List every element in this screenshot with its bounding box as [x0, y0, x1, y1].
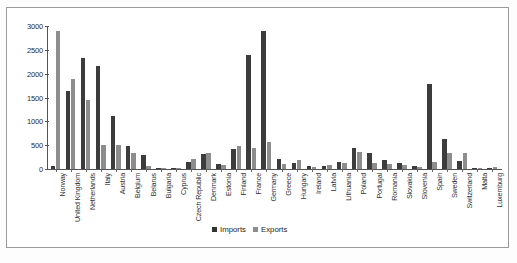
- bar-exports: [267, 142, 272, 169]
- y-tick-mark: [45, 169, 49, 170]
- bar-exports: [237, 146, 242, 169]
- x-tick-label: Slovenia: [420, 173, 429, 199]
- bar-group: [123, 26, 138, 169]
- x-tick-mark: [176, 169, 177, 172]
- x-tick-label: Denmark: [209, 173, 218, 201]
- bar-group: [470, 26, 485, 169]
- bar-group: [63, 26, 78, 169]
- bar-imports: [442, 139, 447, 169]
- bar-exports: [432, 162, 437, 169]
- bar-imports: [382, 160, 387, 169]
- x-tick-label: Slovakia: [405, 173, 414, 199]
- bar-imports: [367, 153, 372, 169]
- x-tick-mark: [251, 169, 252, 172]
- bar-exports: [116, 145, 121, 169]
- x-tick-mark: [462, 169, 463, 172]
- bar-imports: [51, 166, 56, 169]
- x-tick-mark: [146, 169, 147, 172]
- bar-imports: [337, 162, 342, 169]
- bar-group: [274, 26, 289, 169]
- x-tick-mark: [297, 169, 298, 172]
- legend-label-imports: Imports: [220, 225, 246, 234]
- x-tick-mark: [327, 169, 328, 172]
- bar-group: [48, 26, 63, 169]
- bar-imports: [277, 159, 282, 169]
- x-tick-label: Czech Republic: [194, 173, 203, 221]
- x-tick-label: Portugal: [375, 173, 384, 199]
- bar-group: [349, 26, 364, 169]
- legend-swatch-exports: [253, 227, 258, 232]
- x-tick-label: Switzerland: [465, 173, 474, 209]
- x-tick-mark: [372, 169, 373, 172]
- bar-imports: [427, 84, 432, 169]
- y-tick-label: 0: [39, 165, 43, 174]
- bar-imports: [246, 55, 251, 169]
- bar-imports: [111, 116, 116, 169]
- bar-exports: [131, 153, 136, 169]
- bar-group: [78, 26, 93, 169]
- bar-imports: [171, 168, 176, 169]
- x-tick-label: Latvia: [329, 173, 338, 191]
- x-tick-label: Belarus: [149, 173, 158, 196]
- x-tick-label: Italy: [103, 173, 112, 185]
- x-tick-mark: [86, 169, 87, 172]
- x-tick-mark: [206, 169, 207, 172]
- bar-exports: [86, 100, 91, 169]
- legend-item-imports: Imports: [212, 225, 246, 234]
- bar-imports: [472, 168, 477, 169]
- x-tick-mark: [56, 169, 57, 172]
- x-tick-mark: [342, 169, 343, 172]
- x-tick-mark: [131, 169, 132, 172]
- x-tick-mark: [221, 169, 222, 172]
- x-tick-label: Poland: [359, 173, 368, 194]
- bar-group: [440, 26, 455, 169]
- x-tick-mark: [447, 169, 448, 172]
- bar-imports: [457, 161, 462, 169]
- x-tick-mark: [161, 169, 162, 172]
- bar-imports: [487, 168, 492, 169]
- bar-exports: [101, 145, 106, 169]
- bar-group: [169, 26, 184, 169]
- y-tick-label: 1000: [27, 117, 43, 126]
- bar-exports: [252, 148, 257, 169]
- bar-imports: [66, 91, 71, 169]
- bar-group: [93, 26, 108, 169]
- x-tick-label: Ireland: [314, 173, 323, 194]
- bar-exports: [357, 152, 362, 169]
- x-tick-mark: [402, 169, 403, 172]
- legend-swatch-imports: [212, 227, 217, 232]
- x-tick-mark: [116, 169, 117, 172]
- bar-imports: [126, 146, 131, 169]
- bar-imports: [186, 162, 191, 169]
- bar-group: [455, 26, 470, 169]
- bar-imports: [96, 66, 101, 169]
- x-tick-mark: [387, 169, 388, 172]
- figure: 050010001500200025003000 NorwayUnited Ki…: [0, 0, 517, 263]
- x-tick-mark: [312, 169, 313, 172]
- y-tick-label: 3000: [27, 22, 43, 31]
- x-tick-mark: [417, 169, 418, 172]
- x-tick-label: Greece: [284, 173, 293, 196]
- x-tick-label: Norway: [58, 173, 67, 196]
- x-tick-label: Romania: [390, 173, 399, 201]
- bar-group: [244, 26, 259, 169]
- x-tick-label: United Kingdom: [73, 173, 82, 222]
- bar-imports: [352, 148, 357, 169]
- bar-group: [334, 26, 349, 169]
- bar-exports: [463, 153, 468, 169]
- bar-group: [138, 26, 153, 169]
- bar-group: [364, 26, 379, 169]
- y-tick-label: 1500: [27, 93, 43, 102]
- x-tick-label: Luxemburg: [495, 173, 504, 208]
- x-tick-mark: [492, 169, 493, 172]
- bar-group: [199, 26, 214, 169]
- bars-layer: [48, 26, 500, 169]
- x-tick-label: Germany: [269, 173, 278, 202]
- plot-area: [48, 26, 500, 169]
- bar-group: [259, 26, 274, 169]
- bar-imports: [322, 166, 327, 169]
- legend-item-exports: Exports: [253, 225, 287, 234]
- bar-group: [108, 26, 123, 169]
- bar-imports: [81, 58, 86, 169]
- x-tick-mark: [432, 169, 433, 172]
